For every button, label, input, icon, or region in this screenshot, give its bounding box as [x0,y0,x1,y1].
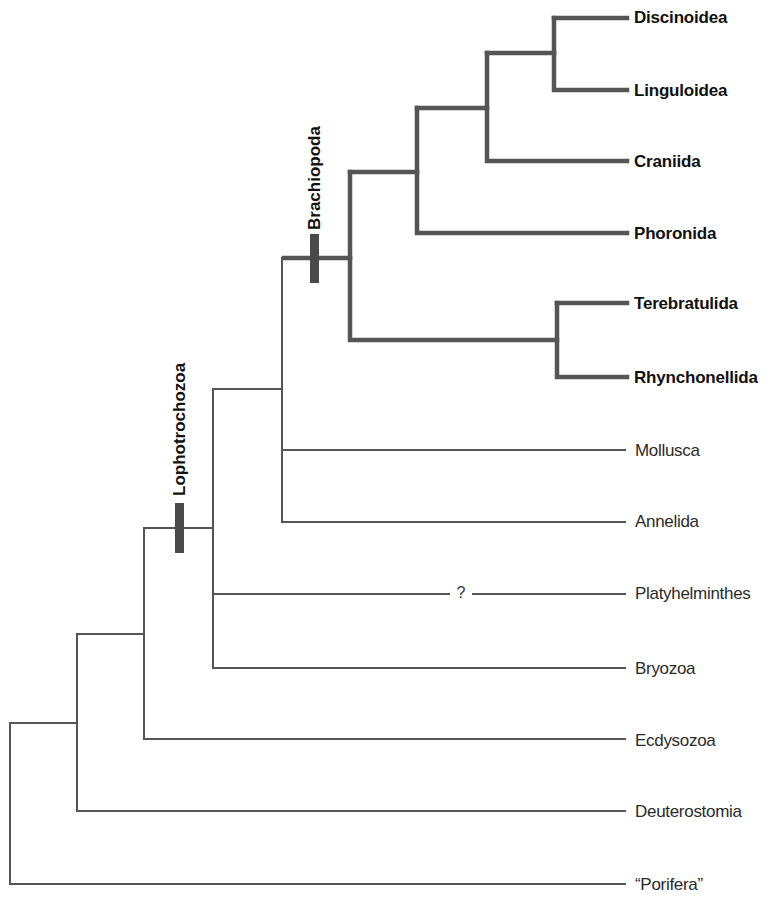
branch-lophotrochozoa-node [213,389,625,668]
taxon-label-rhynchonellida: Rhynchonellida [634,368,758,388]
taxon-label-terebratulida: Terebratulida [634,294,738,314]
branch-lingulid-node [554,18,627,90]
taxon-label-craniida: Craniida [634,152,700,172]
thick-branches [284,18,627,377]
branch-phoronida-node [417,108,627,233]
brachiopoda-marker [310,234,319,283]
taxon-label-bryozoa: Bryozoa [635,659,695,679]
taxon-label-platyhelminthes: Platyhelminthes [635,584,751,604]
thin-branches [10,258,625,884]
taxon-label-deuterostomia: Deuterostomia [635,802,742,822]
lophotrochozoa-marker [175,503,184,553]
branch-deuterostomia-node [77,634,625,811]
branch-rhynchonelliform-node [557,303,627,377]
taxon-label-annelida: Annelida [635,512,699,532]
branch-root [10,723,625,884]
taxon-label-ecdysozoa: Ecdysozoa [635,731,715,751]
branch-ecdysozoa-node [144,528,625,739]
clade-label-lophotrochozoa: Lophotrochozoa [170,363,190,496]
taxon-label-phoronida: Phoronida [634,224,716,244]
taxon-label-porifera: “Porifera” [635,875,703,895]
branch-craniida-node [487,53,627,161]
branch-brachiopoda-node [350,172,557,340]
clade-label-brachiopoda: Brachiopoda [305,126,325,230]
taxon-label-discinoidea: Discinoidea [634,8,727,28]
branch-mollusca-annelida-node [282,258,625,522]
taxon-label-linguloidea: Linguloidea [634,81,727,101]
taxon-label-mollusca: Mollusca [635,441,700,461]
uncertain-placement-marker: ? [457,584,466,602]
